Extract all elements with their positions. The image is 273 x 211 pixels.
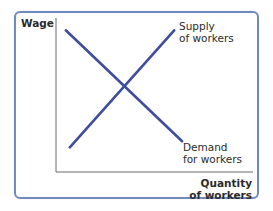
demand-curve-label: Demand for workers xyxy=(183,141,242,165)
supply-label-line-2: of workers xyxy=(179,32,234,44)
demand-curve xyxy=(66,30,182,141)
series-layer xyxy=(66,30,182,147)
x-label-line-1: Quantity xyxy=(189,177,252,189)
demand-label-line-2: for workers xyxy=(183,153,242,165)
supply-curve-label: Supply of workers xyxy=(179,20,234,44)
x-label-line-2: of workers xyxy=(189,189,252,201)
x-axis-label: Quantity of workers xyxy=(189,177,252,201)
y-axis-label: Wage xyxy=(21,17,54,29)
supply-label-line-1: Supply xyxy=(179,20,234,32)
demand-label-line-1: Demand xyxy=(183,141,242,153)
